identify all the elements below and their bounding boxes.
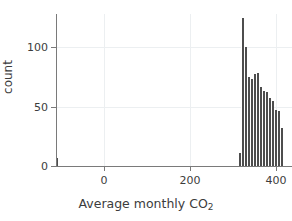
y-tick-label: 100 <box>27 42 48 53</box>
x-axis-label-text: Average monthly CO <box>78 196 207 211</box>
x-gridline <box>190 14 191 166</box>
y-gridline <box>56 47 292 48</box>
x-tick-mark <box>190 166 191 171</box>
plot-area <box>56 14 292 166</box>
x-axis-label: Average monthly CO2 <box>0 196 292 211</box>
histogram-figure: count Average monthly CO2 0501000200400 <box>0 0 292 221</box>
y-tick-label: 0 <box>41 161 48 172</box>
x-axis-spine <box>56 166 292 167</box>
x-axis-label-subscript: 2 <box>208 202 214 212</box>
y-tick-mark <box>51 166 56 167</box>
y-tick-mark <box>51 107 56 108</box>
x-tick-label: 400 <box>266 175 287 186</box>
y-tick-label: 50 <box>34 102 48 113</box>
x-gridline <box>104 14 105 166</box>
x-tick-mark <box>276 166 277 171</box>
y-axis-spine <box>56 14 57 166</box>
histogram-bar <box>280 128 283 166</box>
x-tick-mark <box>104 166 105 171</box>
y-axis-label: count <box>1 60 15 94</box>
y-tick-mark <box>51 47 56 48</box>
x-tick-label: 200 <box>180 175 201 186</box>
x-tick-label: 0 <box>101 175 108 186</box>
